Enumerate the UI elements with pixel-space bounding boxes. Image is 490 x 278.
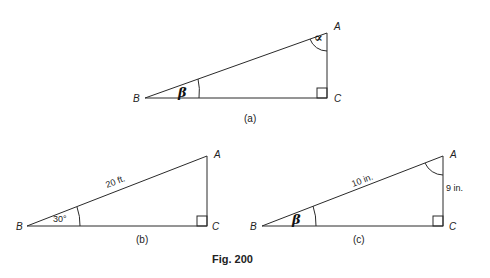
- vertex-label-b: B: [16, 221, 23, 232]
- vertex-label-c: C: [449, 221, 457, 232]
- right-angle-marker: [433, 216, 443, 226]
- angle-beta-label: β: [177, 85, 187, 100]
- figure-caption: Fig. 200: [212, 253, 253, 265]
- hypotenuse-ab: [262, 156, 443, 226]
- right-angle-marker: [317, 88, 327, 98]
- angle-alpha-label: ∝: [314, 30, 323, 45]
- caption-b: (b): [136, 234, 148, 245]
- figure-canvas: B A C β ∝ (a) B A C 30° 20 ft. (b) B A C…: [0, 0, 490, 278]
- caption-a: (a): [244, 113, 256, 124]
- vertex-label-c: C: [212, 221, 220, 232]
- vertex-label-a: A: [333, 21, 341, 32]
- angle-beta-label: β: [291, 212, 301, 227]
- angle-arc-b: [77, 207, 80, 226]
- vertex-label-c: C: [334, 93, 342, 104]
- vertex-label-b: B: [133, 93, 140, 104]
- angle-arc-a: [425, 163, 443, 175]
- hypotenuse-label: 10 in.: [350, 172, 374, 189]
- vertex-label-b: B: [250, 221, 257, 232]
- right-angle-marker: [197, 216, 207, 226]
- triangle-b: B A C 30° 20 ft. (b): [16, 149, 221, 245]
- angle-label-30: 30°: [53, 214, 67, 224]
- triangle-c: B A C β 10 in. 9 in. (c): [250, 149, 463, 245]
- angle-arc-b: [198, 79, 199, 98]
- hypotenuse-ab: [145, 33, 327, 98]
- angle-arc-b: [313, 206, 316, 226]
- caption-c: (c): [353, 234, 365, 245]
- hypotenuse-label: 20 ft.: [104, 173, 126, 190]
- side-ac-label: 9 in.: [446, 183, 463, 193]
- vertex-label-a: A: [213, 149, 221, 160]
- vertex-label-a: A: [449, 149, 457, 160]
- triangle-a: B A C β ∝ (a): [133, 21, 342, 124]
